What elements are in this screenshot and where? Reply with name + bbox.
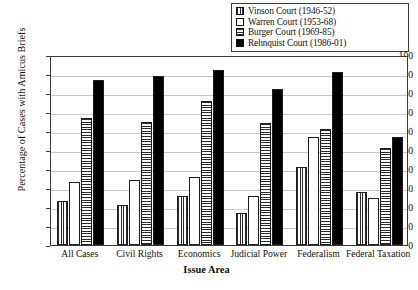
legend-swatch-horizontal-stripes-icon <box>236 28 244 36</box>
bar <box>332 72 343 245</box>
bar <box>320 129 331 245</box>
bar <box>117 205 128 245</box>
x-axis-label: Issue Area <box>0 264 413 275</box>
bar-group <box>111 57 171 245</box>
legend-item-label: Rehnquist Court (1986-01) <box>248 38 346 49</box>
bar <box>248 196 259 245</box>
bar <box>308 137 319 245</box>
legend-swatch-solid-black-icon <box>236 39 244 47</box>
legend-swatch-white-empty-icon <box>236 18 244 26</box>
bar <box>81 118 92 245</box>
legend-item: Rehnquist Court (1986-01) <box>236 38 404 49</box>
bar <box>93 80 104 245</box>
legend-item-label: Burger Court (1969-85) <box>248 27 334 38</box>
bar-group <box>230 57 290 245</box>
bar <box>57 201 68 245</box>
bar <box>356 192 367 245</box>
bar <box>129 180 140 245</box>
bar <box>201 101 212 245</box>
bar <box>380 148 391 245</box>
legend-item: Burger Court (1969-85) <box>236 27 404 38</box>
bar <box>141 122 152 246</box>
bar-group <box>51 57 111 245</box>
bar <box>69 182 80 245</box>
bar <box>153 76 164 245</box>
bar <box>213 70 224 245</box>
bar <box>368 198 379 246</box>
bar <box>296 167 307 245</box>
bar <box>177 196 188 245</box>
bar-group <box>290 57 350 245</box>
legend-item-label: Warren Court (1953-68) <box>248 17 336 28</box>
legend-item: Vinson Court (1946-52) <box>236 6 404 17</box>
bar <box>392 137 403 245</box>
legend-item: Warren Court (1953-68) <box>236 17 404 28</box>
bar <box>189 177 200 245</box>
bar-group <box>349 57 408 245</box>
x-tick-label: Federal Taxation <box>336 249 418 259</box>
y-axis-label: Percentage of Cases with Amicus Briefs <box>16 10 27 210</box>
plot-area <box>50 56 408 246</box>
legend-swatch-vertical-stripes-icon <box>236 7 244 15</box>
chart-legend: Vinson Court (1946-52)Warren Court (1953… <box>231 3 409 52</box>
bar <box>272 89 283 245</box>
y-tick-mark <box>46 246 50 247</box>
bar <box>236 213 247 245</box>
bar <box>260 123 271 245</box>
bar-group <box>170 57 230 245</box>
legend-item-label: Vinson Court (1946-52) <box>248 6 335 17</box>
